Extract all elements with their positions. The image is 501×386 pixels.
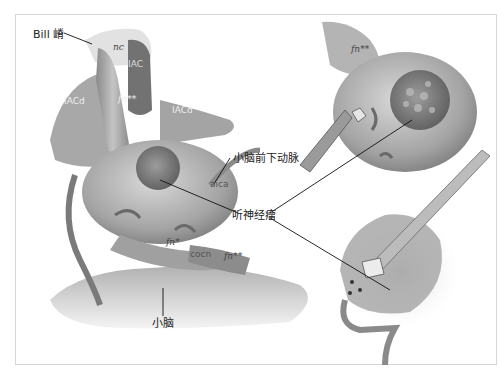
nc-label: nc — [113, 43, 124, 52]
iacd-right-label: IACd — [172, 106, 193, 115]
cerebellum-label: 小脑 — [152, 318, 174, 329]
cocn-label: cocn — [190, 250, 211, 259]
aica-label: 小脑前下动脉 — [233, 153, 299, 164]
bottom-right-panel-drawing — [335, 150, 490, 365]
iacd-left-label: IACd — [64, 97, 85, 106]
acoustic-neuroma-label: 听神经瘤 — [232, 210, 276, 221]
anatomical-illustration — [0, 0, 501, 386]
fn-top-label: fn** — [118, 95, 136, 104]
aica-abbr-label: aica — [210, 180, 228, 189]
bill-bar-label: Bill 嵴 — [33, 29, 64, 40]
fn-bottom-label: fn** — [224, 252, 242, 261]
fn-top-right-label: fn** — [351, 45, 369, 54]
iac-label: IAC — [128, 60, 143, 69]
top-right-panel-drawing — [300, 22, 477, 172]
left-panel-drawing — [50, 29, 308, 329]
fn-mid-label: fn* — [166, 238, 180, 247]
